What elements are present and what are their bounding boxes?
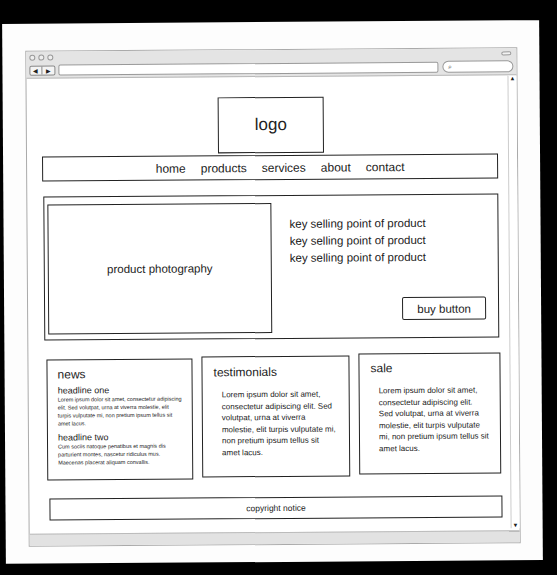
testimonials-title: testimonials (213, 365, 337, 380)
minimize-window-icon[interactable] (38, 55, 44, 61)
page-content: logo home products services about contac… (26, 75, 510, 533)
sale-body: Lorem ipsum dolor sit amet, consectetur … (371, 378, 490, 454)
window-controls (29, 55, 53, 61)
scroll-up-icon[interactable]: ▲ (509, 75, 515, 81)
vertical-scrollbar[interactable]: ▲ ▼ (507, 75, 519, 528)
news-body: Lorem ipsum dolor sit amet, consectetur … (58, 395, 182, 428)
nav-item-products[interactable]: products (201, 161, 247, 175)
selling-point: key selling point of product (290, 249, 426, 267)
browser-window: ◀ ▶ ⌕ logo home products services about … (25, 47, 520, 546)
buy-button[interactable]: buy button (402, 297, 486, 321)
search-input[interactable]: ⌕ (442, 60, 513, 72)
nav-item-home[interactable]: home (156, 161, 186, 175)
sale-title: sale (370, 360, 488, 375)
nav-item-services[interactable]: services (262, 160, 306, 174)
logo-label: logo (255, 115, 287, 135)
search-icon: ⌕ (448, 63, 452, 70)
news-body: Cum sociis natoque penatibus et magnis d… (58, 442, 182, 467)
logo-placeholder[interactable]: logo (218, 97, 324, 154)
news-title: news (57, 367, 181, 382)
browser-toolbar: ◀ ▶ ⌕ (26, 48, 516, 78)
back-button[interactable]: ◀ (30, 67, 42, 75)
history-buttons: ◀ ▶ (29, 66, 55, 76)
product-photo-placeholder: product photography (47, 203, 272, 335)
sale-panel: sale Lorem ipsum dolor sit amet, consect… (358, 352, 501, 474)
footer: copyright notice (49, 495, 502, 520)
horizontal-scrollbar[interactable] (30, 530, 520, 545)
close-window-icon[interactable] (29, 55, 35, 61)
news-panel: news headline one Lorem ipsum dolor sit … (46, 359, 193, 481)
nav-item-contact[interactable]: contact (366, 160, 405, 174)
main-nav: home products services about contact (42, 153, 498, 181)
url-input[interactable] (58, 62, 438, 76)
copyright-notice: copyright notice (246, 503, 306, 513)
hero-section: product photography key selling point of… (43, 193, 499, 340)
nav-item-about[interactable]: about (321, 160, 351, 174)
forward-button[interactable]: ▶ (42, 67, 54, 75)
selling-point: key selling point of product (290, 232, 426, 250)
zoom-window-icon[interactable] (47, 55, 53, 61)
selling-points: key selling point of product key selling… (289, 215, 426, 267)
toolbar-toggle-button[interactable] (501, 51, 511, 55)
scroll-down-icon[interactable]: ▼ (513, 522, 519, 528)
product-photo-label: product photography (107, 262, 213, 275)
testimonials-panel: testimonials Lorem ipsum dolor sit amet,… (201, 355, 350, 477)
testimonials-body: Lorem ipsum dolor sit amet, consectetur … (214, 383, 339, 459)
selling-point: key selling point of product (289, 215, 425, 233)
